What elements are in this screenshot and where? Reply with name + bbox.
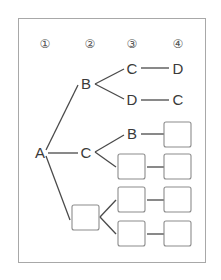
edge-a-b bbox=[46, 85, 78, 150]
blank-box-level2[interactable] bbox=[72, 205, 99, 230]
node-level3-d: D bbox=[127, 91, 138, 108]
blank-box-r6-l4[interactable] bbox=[164, 221, 191, 246]
node-root-a: A bbox=[35, 144, 45, 161]
edge-b-c bbox=[95, 69, 124, 84]
node-level2-c: C bbox=[81, 144, 92, 161]
node-level2-b: B bbox=[81, 75, 91, 92]
blank-box-r4-l3[interactable] bbox=[118, 154, 145, 179]
node-level3-b: B bbox=[127, 125, 137, 142]
blank-box-r5-l4[interactable] bbox=[164, 187, 191, 212]
edge-a-blank bbox=[46, 156, 70, 220]
blank-box-r4-l4[interactable] bbox=[164, 154, 191, 179]
column-header-3: ③ bbox=[127, 37, 138, 51]
tree-diagram: ① ② ③ ④ A B C D D C C B bbox=[0, 0, 221, 280]
node-level4-d: D bbox=[173, 60, 184, 77]
column-header-4: ④ bbox=[173, 37, 184, 51]
node-level3-c: C bbox=[127, 60, 138, 77]
column-header-1: ① bbox=[40, 37, 51, 51]
blank-box-r5-l3[interactable] bbox=[118, 187, 145, 212]
blank-box-r6-l3[interactable] bbox=[118, 221, 145, 246]
edge-c-b bbox=[95, 135, 124, 152]
blank-box-r3-l4[interactable] bbox=[164, 122, 191, 147]
edge-blank-lower bbox=[100, 217, 116, 234]
edge-c-blank bbox=[95, 152, 116, 167]
column-header-2: ② bbox=[85, 37, 96, 51]
edge-blank-upper bbox=[100, 200, 116, 217]
node-level4-c: C bbox=[173, 91, 184, 108]
edge-b-d bbox=[95, 84, 124, 99]
